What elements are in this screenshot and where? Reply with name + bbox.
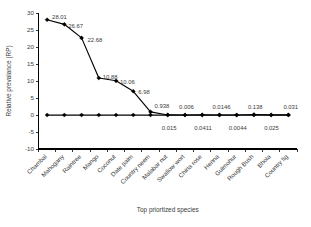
y-axis-tick-label: 0: [31, 111, 35, 118]
data-point-label: 10.88: [103, 74, 118, 80]
y-axis-tick-label: 15: [27, 60, 34, 67]
data-point-label: 0.015: [162, 125, 177, 131]
x-axis-title: Top priortized species: [137, 206, 199, 214]
data-point-label: 28.01: [52, 14, 67, 20]
y-axis-tick-label: 20: [27, 43, 34, 50]
y-axis-tick-label: 25: [27, 26, 34, 33]
y-axis-tick-label: 10: [27, 77, 34, 84]
y-axis-tick-label: 30: [27, 9, 34, 16]
data-point-label: 0.0411: [194, 125, 212, 131]
line-chart: 302520151050-5-10 ChambalMahoganyRaintre…: [0, 0, 311, 227]
data-point-label: 0.938: [155, 103, 170, 109]
data-point-label: 0.0146: [212, 104, 231, 110]
data-point-label: 0.025: [264, 125, 279, 131]
data-point-label: 0.006: [179, 104, 194, 110]
y-axis-tick-label: 5: [31, 94, 35, 101]
y-axis-tick-label: -10: [25, 145, 35, 152]
data-point-label: 6.98: [138, 89, 150, 95]
data-point-label: 10.06: [120, 79, 135, 85]
data-point-label: 22.68: [88, 37, 103, 43]
chart-container: 302520151050-5-10 ChambalMahoganyRaintre…: [0, 0, 311, 227]
y-axis-tick-label: -5: [28, 128, 34, 135]
data-point-label: 0.138: [248, 104, 263, 110]
y-axis-title: Relative prevalance (RP): [5, 45, 13, 116]
data-point-label: 0.031: [283, 104, 298, 110]
data-point-label: 0.0044: [229, 125, 248, 131]
data-point-label: 26.67: [68, 23, 83, 29]
